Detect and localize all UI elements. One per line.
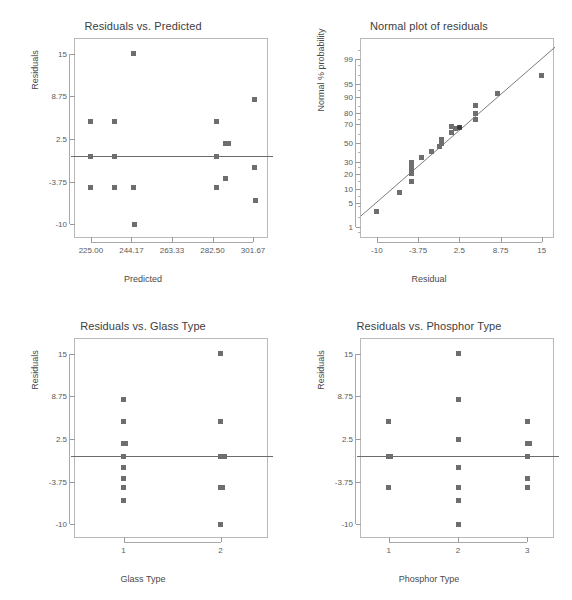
normal-reference-line [361,39,555,239]
data-point [473,117,478,122]
y-tick-label: 99 [344,54,353,63]
plot-area: 158.752.5-3.75-1012 [74,338,268,538]
data-point [456,465,461,470]
data-point [220,485,225,490]
panel-residuals-vs-glass-type: Residuals vs. Glass Type 158.752.5-3.75-… [0,300,286,600]
y-tick-mark [356,482,361,483]
data-point [439,137,444,142]
y-tick-label: 15 [58,49,67,58]
data-point [409,160,414,165]
y-tick-mark [356,524,361,525]
y-tick-mark [356,439,361,440]
data-point [419,155,424,160]
y-tick-label: 95 [344,79,353,88]
plot-area: 158.752.5-3.75-10123 [360,338,554,538]
x-tick-label: 15 [537,246,546,255]
data-point [214,154,219,159]
data-point [253,198,258,203]
x-axis-bracket [377,242,542,243]
y-tick-mark [356,354,361,355]
data-point [121,465,126,470]
y-tick-label: 1 [349,223,353,232]
data-point [88,185,93,190]
y-tick-label: 20 [344,169,353,178]
y-tick-label: -3.75 [335,477,353,486]
data-point-highlighted [457,125,462,130]
data-point [495,91,500,96]
data-point [252,165,257,170]
x-axis-label: Glass Type [0,574,286,584]
data-point [132,222,137,227]
x-axis-bracket [91,242,253,243]
y-tick-label: 10 [344,185,353,194]
plot-inner: 158.752.5-3.75-1012 [75,339,267,537]
data-point [112,154,117,159]
y-tick-mark [70,224,75,225]
data-point [388,454,393,459]
y-tick-label: 15 [58,349,67,358]
data-point [214,185,219,190]
panel-residuals-vs-predicted: Residuals vs. Predicted 158.752.5-3.75-1… [0,0,286,300]
x-tick-label: 2.5 [454,246,465,255]
data-point [218,351,223,356]
y-tick-label: 90 [344,92,353,101]
panel-residuals-vs-phosphor-type: Residuals vs. Phosphor Type 158.752.5-3.… [286,300,572,600]
y-axis-label: Residuals [30,270,40,470]
y-tick-label: -3.75 [49,177,67,186]
data-point [374,209,379,214]
plot-inner: 99959080705030201051-10-3.752.58.7515 [361,39,553,237]
y-tick-mark [356,396,361,397]
y-tick-mark [70,396,75,397]
data-point [214,119,219,124]
x-tick-label: -10 [371,246,383,255]
y-tick-mark [70,182,75,183]
data-point [121,419,126,424]
data-point [409,179,414,184]
y-axis-label: Residuals [30,0,40,170]
data-point [218,419,223,424]
x-tick-label: 1 [386,546,390,555]
data-point [525,485,530,490]
y-tick-label: 8.75 [337,392,353,401]
x-axis-label: Predicted [0,274,286,284]
x-tick-label: -3.75 [409,246,427,255]
data-point [121,485,126,490]
x-tick-mark [221,537,222,542]
panel-title: Residuals vs. Predicted [0,20,286,32]
data-point [473,103,478,108]
data-point [226,141,231,146]
data-point [121,397,126,402]
x-tick-label: 2 [218,546,222,555]
x-tick-label: 263.33 [160,246,184,255]
y-axis-label: Normal % probability [316,0,326,170]
x-tick-label: 8.75 [493,246,509,255]
y-tick-label: 2.5 [56,135,67,144]
y-axis-bracket [355,59,356,227]
data-point [131,185,136,190]
y-tick-mark [70,96,75,97]
data-point [456,397,461,402]
y-tick-label: 8.75 [51,392,67,401]
x-tick-mark [253,237,254,242]
data-point [121,476,126,481]
y-tick-label: 50 [344,139,353,148]
data-point [456,437,461,442]
x-tick-label: 2 [456,546,460,555]
y-tick-mark [70,482,75,483]
y-tick-mark [70,54,75,55]
data-point [525,454,530,459]
residual-plots-figure: Residuals vs. Predicted 158.752.5-3.75-1… [0,0,572,600]
y-tick-label: 80 [344,108,353,117]
data-point [121,454,126,459]
data-point [121,498,126,503]
data-point [456,485,461,490]
y-tick-mark [70,354,75,355]
x-tick-label: 1 [121,546,125,555]
data-point [218,522,223,527]
data-point [112,185,117,190]
y-tick-label: 8.75 [51,92,67,101]
data-point [386,419,391,424]
y-axis-bracket [69,354,70,524]
y-tick-label: 70 [344,120,353,129]
y-tick-label: 2.5 [56,435,67,444]
